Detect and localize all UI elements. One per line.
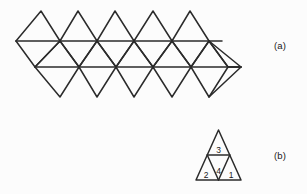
figure-drawing: 3 2 4 1 [0,0,307,194]
face-number-2: 2 [204,170,209,180]
figure-container: 3 2 4 1 (a) (b) [0,0,307,194]
panel-label-a: (a) [274,40,286,51]
middle-zigzag-ascending [35,41,241,67]
face-number-3: 3 [216,145,221,155]
face-number-4: 4 [216,166,221,176]
triangle-face-numbers: 3 2 4 1 [204,145,234,180]
panel-label-b: (b) [274,150,286,161]
top-row-zigzag [16,11,209,41]
bottom-row-zigzag [35,67,228,97]
triangular-strip-net-drawing [16,11,241,97]
face-number-1: 1 [229,170,234,180]
